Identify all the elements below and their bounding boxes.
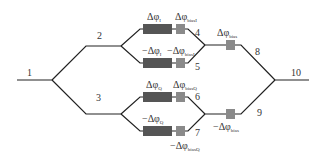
phase-label-arm8-bias: Δφbias <box>217 27 237 39</box>
electrode-arm5-bias <box>176 58 185 68</box>
electrode-arm9-bias <box>226 109 235 119</box>
electrode-arm6-bias <box>176 92 185 102</box>
port-labels: 1 2 3 4 5 6 7 8 9 10 <box>27 27 301 138</box>
waveguide-branch-2 <box>52 46 121 80</box>
phase-label-arm4-bias: ΔφbiasI <box>175 11 197 23</box>
electrode-arm5-main <box>143 58 172 68</box>
port-label-5: 5 <box>195 61 200 72</box>
port-label-6: 6 <box>195 91 200 102</box>
port-label-10: 10 <box>291 67 301 78</box>
waveguide-network <box>17 29 309 131</box>
port-label-2: 2 <box>97 30 102 41</box>
phase-label-arm9-bias: −Δφbias <box>213 121 239 133</box>
port-label-9: 9 <box>257 107 262 118</box>
electrode-arm8-bias <box>226 40 235 50</box>
electrode-arm7-bias <box>176 126 185 136</box>
port-label-7: 7 <box>195 127 200 138</box>
phase-label-arm5-main: −ΔφI <box>142 45 162 57</box>
port-label-8: 8 <box>255 46 260 57</box>
electrode-arm7-main <box>143 126 172 136</box>
electrode-arm4-main <box>143 24 172 34</box>
phase-label-arm4-main: ΔφI <box>147 11 161 23</box>
waveguide-branch-8 <box>205 45 275 80</box>
waveguide-branch-3 <box>52 80 121 114</box>
electrode-arm6-main <box>143 92 172 102</box>
phase-label-arm7-main: −ΔφQ <box>142 113 164 125</box>
iq-modulator-diagram: 1 2 3 4 5 6 7 8 9 10 ΔφI ΔφbiasI −ΔφI −Δ… <box>0 0 324 156</box>
phase-label-arm6-main: ΔφQ <box>146 79 162 91</box>
phase-label-arm7-bias: −ΔφbiasQ <box>170 140 200 152</box>
waveguide-branch-9 <box>205 80 275 114</box>
electrode-arm4-bias <box>176 24 185 34</box>
phase-label-arm6-bias: ΔφbiasQ <box>173 79 197 91</box>
port-label-3: 3 <box>96 92 101 103</box>
port-label-1: 1 <box>27 67 32 78</box>
port-label-4: 4 <box>195 27 200 38</box>
phase-label-arm5-bias: −ΔφbiasI <box>167 45 195 57</box>
